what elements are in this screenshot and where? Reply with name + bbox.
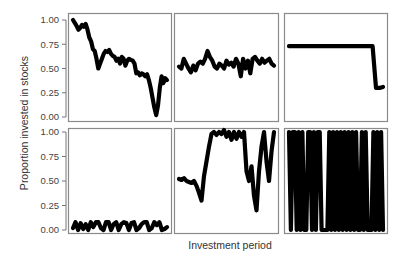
y-axis-label: Proportion invested in stocks xyxy=(18,53,30,193)
chart-canvas: 1.000.750.500.250.001.000.750.500.250.00 xyxy=(0,0,409,260)
panel-border xyxy=(285,14,388,122)
y-tick-label: 0.00 xyxy=(41,224,60,235)
y-tick-label: 0.50 xyxy=(41,175,60,186)
panel-1-3 xyxy=(285,14,388,122)
panel-1-2 xyxy=(175,14,279,122)
x-axis-label: Investment period xyxy=(180,239,280,251)
panel-2-3 xyxy=(285,129,388,234)
y-tick-label: 0.00 xyxy=(41,111,60,122)
y-tick-label: 0.75 xyxy=(41,39,60,50)
data-line xyxy=(73,222,167,230)
y-tick-label: 1.00 xyxy=(41,14,60,25)
panel-2-2 xyxy=(175,129,279,234)
y-tick-label: 0.25 xyxy=(41,87,60,98)
panel-border xyxy=(69,129,172,234)
y-axis-row-1: 1.000.750.500.250.00 xyxy=(41,126,67,235)
panel-1-1 xyxy=(69,14,172,122)
panel-2-1 xyxy=(69,129,172,234)
y-axis-row-0: 1.000.750.500.250.00 xyxy=(41,14,67,122)
y-tick-label: 0.25 xyxy=(41,200,60,211)
y-tick-label: 0.75 xyxy=(41,151,60,162)
faceted-line-chart: 1.000.750.500.250.001.000.750.500.250.00… xyxy=(0,0,409,260)
y-tick-label: 0.50 xyxy=(41,63,60,74)
y-tick-label: 1.00 xyxy=(41,126,60,137)
